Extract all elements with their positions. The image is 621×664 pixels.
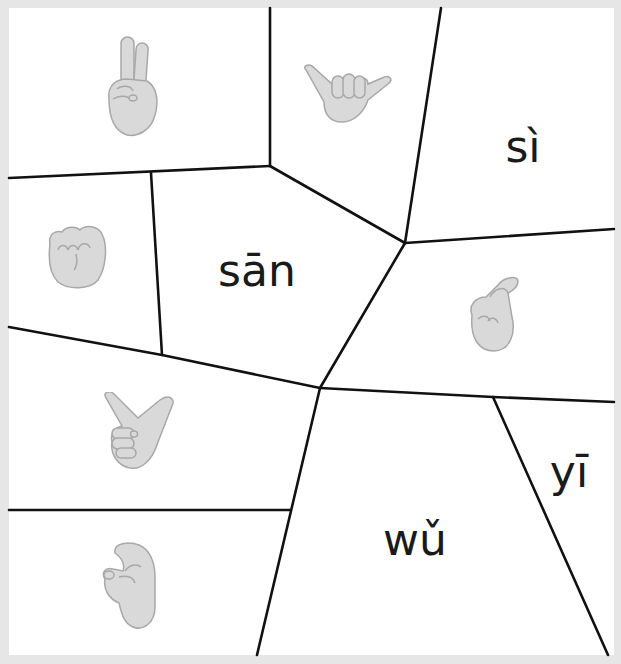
hand-thumb-pinky-icon[interactable] (302, 64, 394, 126)
hand-crossed-fingers-icon[interactable] (464, 275, 522, 355)
hand-thumb-index-icon[interactable] (102, 392, 178, 472)
hand-two-fingers-icon[interactable] (103, 35, 163, 139)
pinyin-yi[interactable]: yī (550, 450, 588, 494)
pinyin-wu[interactable]: wǔ (383, 518, 447, 562)
hand-fist-icon[interactable] (46, 224, 108, 290)
hand-hook-fingers-icon[interactable] (99, 541, 161, 631)
pinyin-san[interactable]: sān (218, 249, 296, 293)
pinyin-si[interactable]: sì (505, 125, 540, 169)
